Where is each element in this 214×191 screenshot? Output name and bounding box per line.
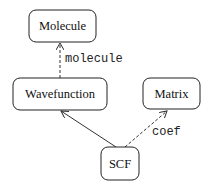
node-label-molecule: Molecule [39, 19, 87, 33]
node-matrix[interactable]: Matrix [143, 78, 200, 109]
edge-label-coef: coef [152, 125, 181, 139]
diagram-canvas: molecule coef Molecule Wavefunction Matr… [0, 0, 214, 191]
node-scf[interactable]: SCF [101, 147, 139, 180]
node-label-scf: SCF [109, 157, 131, 171]
edge-label-molecule: molecule [65, 52, 123, 66]
edge-wavefunction-to-molecule: molecule [60, 43, 123, 78]
node-label-wavefunction: Wavefunction [25, 87, 96, 101]
node-label-matrix: Matrix [154, 87, 189, 101]
edge-scf-to-matrix: coef [125, 111, 181, 147]
node-wavefunction[interactable]: Wavefunction [13, 78, 107, 110]
edge-scf-to-wavefunction [61, 111, 116, 147]
node-molecule[interactable]: Molecule [29, 10, 96, 42]
solid-arrow-wavefunction [61, 111, 116, 147]
